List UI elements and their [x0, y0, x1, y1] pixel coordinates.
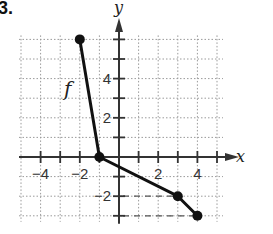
- svg-text:2: 2: [103, 109, 111, 126]
- problem-number: 3.: [0, 0, 13, 18]
- svg-text:4: 4: [193, 165, 201, 182]
- axes: [19, 18, 239, 224]
- svg-text:−2: −2: [94, 187, 111, 204]
- svg-text:−2: −2: [71, 165, 88, 182]
- function-label: f: [62, 77, 75, 101]
- y-axis-label: y: [113, 0, 124, 17]
- x-axis-label: x: [236, 147, 245, 166]
- graph: 3. −4−224−224 y x f: [0, 0, 273, 234]
- svg-text:−4: −4: [32, 165, 49, 182]
- svg-text:2: 2: [154, 165, 162, 182]
- svg-text:4: 4: [103, 70, 111, 87]
- grid: [19, 35, 223, 221]
